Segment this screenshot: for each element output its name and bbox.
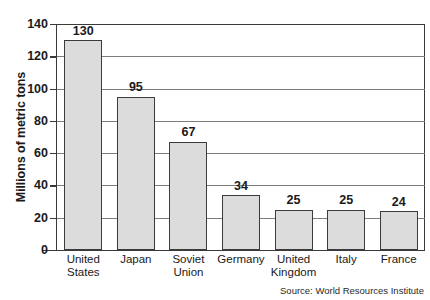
bar-item[interactable]: 67 — [169, 24, 207, 250]
x-category-label-line: United — [267, 253, 320, 266]
x-category-label: UnitedKingdom — [267, 253, 320, 279]
y-tick-label: 100 — [8, 83, 48, 96]
y-tick-label: 120 — [8, 50, 48, 63]
x-category-label: France — [372, 253, 425, 266]
x-category-label: Italy — [320, 253, 373, 266]
y-tick-label: 60 — [8, 147, 48, 160]
y-tick-mark — [50, 56, 57, 57]
bar-value-label: 95 — [105, 81, 167, 94]
x-category-label-line: Kingdom — [267, 266, 320, 279]
y-tick-label: 40 — [8, 179, 48, 192]
x-category-label-line: France — [372, 253, 425, 266]
x-axis-line — [43, 250, 425, 251]
y-tick-mark — [50, 153, 57, 154]
bar-rect[interactable] — [169, 142, 207, 250]
y-tick-mark — [50, 185, 57, 186]
bar-rect[interactable] — [275, 210, 313, 250]
bar-value-label: 34 — [210, 180, 272, 193]
x-category-label: UnitedStates — [57, 253, 110, 279]
bars-group: 130956734252524 — [57, 24, 425, 250]
source-note: Source: World Resources Institute — [280, 285, 424, 296]
x-category-label-line: Japan — [110, 253, 163, 266]
bar-rect[interactable] — [117, 97, 155, 250]
x-category-label-line: Union — [162, 266, 215, 279]
x-axis-category-labels: UnitedStatesJapanSovietUnionGermanyUnite… — [57, 253, 425, 287]
y-tick-label: 0 — [8, 244, 48, 257]
y-tick-mark — [50, 218, 57, 219]
x-category-label-line: Soviet — [162, 253, 215, 266]
x-category-label-line: United — [57, 253, 110, 266]
x-category-label: Germany — [215, 253, 268, 266]
y-tick-mark — [50, 250, 57, 251]
bar-item[interactable]: 25 — [275, 24, 313, 250]
x-category-label-line: States — [57, 266, 110, 279]
x-category-label: SovietUnion — [162, 253, 215, 279]
x-category-label: Japan — [110, 253, 163, 266]
y-tick-mark — [50, 121, 57, 122]
cropped-title-remnant — [0, 0, 430, 8]
y-tick-mark — [50, 89, 57, 90]
bar-item[interactable]: 34 — [222, 24, 260, 250]
bar-item[interactable]: 95 — [117, 24, 155, 250]
bar-item[interactable]: 24 — [380, 24, 418, 250]
bar-rect[interactable] — [222, 195, 260, 250]
y-tick-label: 140 — [8, 18, 48, 31]
bar-rect[interactable] — [380, 211, 418, 250]
bar-value-label: 67 — [157, 126, 219, 139]
bar-value-label: 24 — [368, 196, 430, 209]
bar-chart: Millions of metric tons 0204060801001201… — [0, 0, 430, 300]
x-category-label-line: Germany — [215, 253, 268, 266]
bar-value-label: 130 — [52, 25, 114, 38]
bar-rect[interactable] — [64, 40, 102, 250]
y-tick-label: 20 — [8, 212, 48, 225]
x-category-label-line: Italy — [320, 253, 373, 266]
bar-item[interactable]: 130 — [64, 24, 102, 250]
bar-item[interactable]: 25 — [327, 24, 365, 250]
y-tick-label: 80 — [8, 115, 48, 128]
bar-rect[interactable] — [327, 210, 365, 250]
